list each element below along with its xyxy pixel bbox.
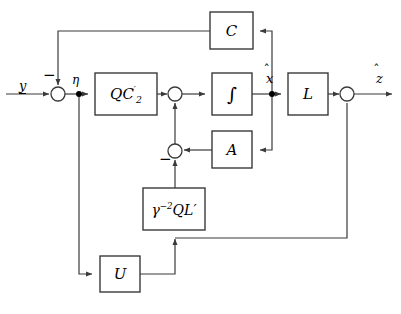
diagram-wires [0, 0, 401, 314]
block-diagram: C QC′2 ∫ L A γ−2QL′ U y η ̂x ̂z − − [0, 0, 401, 314]
block-qc2 [95, 73, 157, 115]
wire-eta-to-u [79, 94, 92, 274]
block-int [212, 73, 252, 115]
block-gamma [143, 188, 205, 230]
node-eta-dot [76, 91, 82, 97]
signal-label-xhat: ̂x [266, 71, 273, 86]
signal-label-zhat: ̂z [376, 71, 383, 86]
wire-u-to-gamma [140, 239, 175, 274]
block-l [288, 73, 328, 115]
node-xhat-dot [269, 91, 275, 97]
summing-junction-output [340, 87, 354, 101]
block-u [100, 256, 140, 292]
summing-junction-state [168, 87, 182, 101]
minus-sign-lower-junction: − [159, 152, 172, 167]
summing-junction-input [51, 87, 65, 101]
signal-label-eta: η [72, 73, 79, 87]
minus-sign-input-junction: − [43, 68, 56, 83]
wire-xhat-to-a [260, 94, 272, 150]
signal-label-y: y [19, 78, 26, 93]
block-a [212, 131, 252, 168]
block-c [210, 12, 253, 49]
